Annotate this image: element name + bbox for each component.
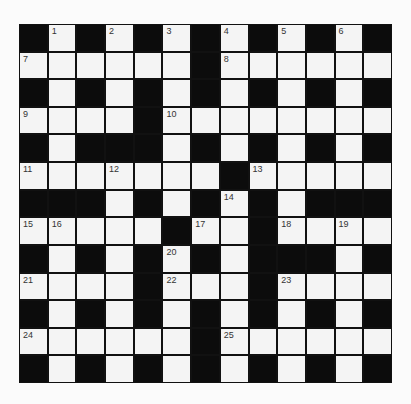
answer-cell[interactable] [336, 329, 363, 355]
answer-cell[interactable] [49, 80, 76, 106]
answer-cell[interactable] [278, 191, 305, 217]
answer-cell[interactable] [307, 53, 334, 79]
answer-cell[interactable] [307, 329, 334, 355]
answer-cell[interactable] [163, 191, 190, 217]
answer-cell[interactable] [192, 274, 219, 300]
answer-cell[interactable] [77, 218, 104, 244]
answer-cell[interactable] [221, 218, 248, 244]
answer-cell[interactable] [163, 80, 190, 106]
answer-cell[interactable] [221, 80, 248, 106]
answer-cell[interactable]: 14 [221, 191, 248, 217]
answer-cell[interactable] [250, 329, 277, 355]
answer-cell[interactable] [336, 53, 363, 79]
answer-cell[interactable] [163, 329, 190, 355]
answer-cell[interactable] [192, 163, 219, 189]
answer-cell[interactable] [106, 246, 133, 272]
answer-cell[interactable] [49, 274, 76, 300]
answer-cell[interactable] [106, 53, 133, 79]
answer-cell[interactable] [163, 356, 190, 382]
answer-cell[interactable]: 24 [20, 329, 47, 355]
answer-cell[interactable] [106, 329, 133, 355]
answer-cell[interactable] [49, 246, 76, 272]
answer-cell[interactable] [163, 301, 190, 327]
answer-cell[interactable] [49, 356, 76, 382]
answer-cell[interactable] [364, 163, 391, 189]
answer-cell[interactable] [307, 274, 334, 300]
answer-cell[interactable] [250, 108, 277, 134]
answer-cell[interactable] [49, 301, 76, 327]
answer-cell[interactable] [163, 53, 190, 79]
answer-cell[interactable] [336, 274, 363, 300]
answer-cell[interactable] [307, 218, 334, 244]
answer-cell[interactable] [364, 53, 391, 79]
answer-cell[interactable] [336, 163, 363, 189]
answer-cell[interactable]: 23 [278, 274, 305, 300]
answer-cell[interactable] [364, 108, 391, 134]
answer-cell[interactable] [106, 80, 133, 106]
answer-cell[interactable] [278, 53, 305, 79]
answer-cell[interactable]: 3 [163, 25, 190, 51]
answer-cell[interactable] [77, 274, 104, 300]
answer-cell[interactable] [192, 108, 219, 134]
answer-cell[interactable] [250, 53, 277, 79]
answer-cell[interactable] [77, 329, 104, 355]
answer-cell[interactable] [49, 53, 76, 79]
answer-cell[interactable] [77, 108, 104, 134]
answer-cell[interactable] [278, 80, 305, 106]
answer-cell[interactable] [307, 163, 334, 189]
answer-cell[interactable]: 1 [49, 25, 76, 51]
answer-cell[interactable] [278, 329, 305, 355]
answer-cell[interactable]: 18 [278, 218, 305, 244]
answer-cell[interactable] [106, 301, 133, 327]
answer-cell[interactable] [221, 301, 248, 327]
answer-cell[interactable] [336, 108, 363, 134]
answer-cell[interactable]: 19 [336, 218, 363, 244]
answer-cell[interactable] [135, 329, 162, 355]
answer-cell[interactable]: 2 [106, 25, 133, 51]
answer-cell[interactable] [106, 356, 133, 382]
answer-cell[interactable]: 6 [336, 25, 363, 51]
answer-cell[interactable] [49, 163, 76, 189]
answer-cell[interactable] [278, 301, 305, 327]
answer-cell[interactable]: 20 [163, 246, 190, 272]
answer-cell[interactable] [221, 246, 248, 272]
answer-cell[interactable] [336, 246, 363, 272]
answer-cell[interactable]: 11 [20, 163, 47, 189]
answer-cell[interactable] [106, 108, 133, 134]
answer-cell[interactable] [77, 163, 104, 189]
answer-cell[interactable] [135, 163, 162, 189]
answer-cell[interactable] [278, 356, 305, 382]
answer-cell[interactable]: 21 [20, 274, 47, 300]
answer-cell[interactable] [221, 108, 248, 134]
answer-cell[interactable]: 13 [250, 163, 277, 189]
answer-cell[interactable]: 4 [221, 25, 248, 51]
answer-cell[interactable]: 5 [278, 25, 305, 51]
answer-cell[interactable] [49, 329, 76, 355]
answer-cell[interactable] [278, 108, 305, 134]
answer-cell[interactable]: 12 [106, 163, 133, 189]
answer-cell[interactable] [106, 218, 133, 244]
answer-cell[interactable] [77, 53, 104, 79]
answer-cell[interactable]: 8 [221, 53, 248, 79]
answer-cell[interactable] [221, 356, 248, 382]
answer-cell[interactable]: 16 [49, 218, 76, 244]
answer-cell[interactable] [364, 329, 391, 355]
answer-cell[interactable]: 25 [221, 329, 248, 355]
answer-cell[interactable] [364, 218, 391, 244]
answer-cell[interactable] [336, 301, 363, 327]
answer-cell[interactable] [49, 108, 76, 134]
answer-cell[interactable] [163, 135, 190, 161]
answer-cell[interactable] [278, 135, 305, 161]
answer-cell[interactable]: 10 [163, 108, 190, 134]
answer-cell[interactable] [336, 356, 363, 382]
answer-cell[interactable]: 7 [20, 53, 47, 79]
answer-cell[interactable]: 15 [20, 218, 47, 244]
answer-cell[interactable]: 9 [20, 108, 47, 134]
answer-cell[interactable] [364, 274, 391, 300]
answer-cell[interactable] [106, 191, 133, 217]
answer-cell[interactable] [307, 108, 334, 134]
answer-cell[interactable] [135, 218, 162, 244]
answer-cell[interactable] [278, 163, 305, 189]
answer-cell[interactable]: 17 [192, 218, 219, 244]
answer-cell[interactable] [336, 135, 363, 161]
